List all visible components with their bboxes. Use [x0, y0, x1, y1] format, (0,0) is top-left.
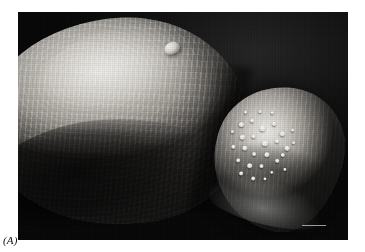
papilla: [280, 153, 285, 158]
papilla: [239, 134, 245, 140]
papilla: [236, 158, 241, 163]
papilla: [261, 140, 268, 147]
papilla: [270, 111, 274, 115]
papilla: [252, 152, 257, 157]
papilla: [238, 122, 244, 128]
papilla: [275, 139, 280, 144]
papilla: [231, 130, 235, 134]
papilla: [244, 110, 248, 114]
papilla: [231, 144, 236, 149]
papilla: [279, 131, 285, 137]
papilla: [264, 152, 270, 158]
figure-panel: (A): [0, 0, 365, 252]
papilla: [258, 110, 262, 114]
papilla: [242, 145, 248, 151]
micrograph-image: [18, 12, 348, 240]
papilla: [239, 171, 244, 176]
papilla: [284, 145, 290, 151]
papilla: [263, 177, 267, 181]
papilla: [291, 128, 295, 132]
papilla: [251, 176, 256, 181]
papilla: [250, 118, 255, 123]
papilla: [259, 125, 266, 132]
papilla: [270, 171, 274, 175]
papilla: [259, 164, 264, 169]
papilla: [247, 163, 253, 169]
papilla: [251, 134, 256, 139]
papilla: [272, 122, 277, 127]
papilla: [292, 141, 296, 145]
panel-label: (A): [3, 234, 18, 247]
scale-bar: [302, 225, 326, 227]
papilla: [283, 168, 287, 172]
papilla: [275, 158, 280, 163]
